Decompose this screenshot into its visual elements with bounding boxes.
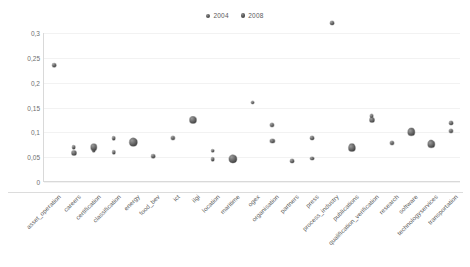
y-axis-tick-label: 0,15 <box>27 104 44 111</box>
data-point <box>72 145 76 149</box>
y-gridline <box>44 132 460 133</box>
data-point <box>390 141 394 145</box>
data-point <box>211 157 215 161</box>
data-point <box>211 149 215 153</box>
data-point <box>369 117 374 122</box>
data-point <box>348 145 355 152</box>
x-axis-tick-label: ogex <box>246 193 261 208</box>
y-axis-tick-label: 0,2 <box>31 79 44 86</box>
data-point <box>270 139 274 143</box>
data-point <box>270 123 274 127</box>
plot-area: 00,050,10,150,20,250,3 <box>43 33 460 182</box>
data-point <box>151 154 155 158</box>
chart-legend: 2004 2008 <box>0 12 470 19</box>
y-gridline <box>44 182 460 183</box>
data-point <box>112 136 116 140</box>
data-point <box>189 117 196 124</box>
y-gridline <box>44 108 460 109</box>
y-axis-tick-label: 0,1 <box>31 129 44 136</box>
data-point <box>449 129 453 133</box>
data-point <box>290 159 294 163</box>
legend-label: 2008 <box>248 12 263 19</box>
data-point <box>171 136 175 140</box>
data-point <box>428 141 434 147</box>
x-axis-tick-label: research <box>377 193 400 216</box>
legend-item-2004: 2004 <box>206 12 228 19</box>
data-point <box>229 155 237 163</box>
bubble-chart: 2004 2008 00,050,10,150,20,250,3 asset_o… <box>0 0 470 267</box>
legend-item-2008: 2008 <box>241 12 264 19</box>
legend-label: 2004 <box>213 12 228 19</box>
y-gridline <box>44 83 460 84</box>
data-point <box>52 63 56 67</box>
y-gridline <box>44 157 460 158</box>
y-axis-tick-label: 0,25 <box>27 54 44 61</box>
data-point <box>130 139 137 146</box>
y-gridline <box>44 33 460 34</box>
data-point <box>71 150 76 155</box>
x-axis-tick-label: asset_operation <box>25 193 62 230</box>
data-point <box>310 157 314 161</box>
x-axis-tick-label: partners <box>279 193 301 215</box>
data-point <box>310 136 314 140</box>
x-axis-tick-label: maritime <box>218 193 240 215</box>
y-axis-tick-label: 0,3 <box>31 30 44 37</box>
data-point <box>408 129 414 135</box>
data-point <box>449 121 453 125</box>
x-axis-tick-label: location <box>200 193 221 214</box>
data-point <box>90 144 96 150</box>
x-axis-tick-label: press <box>304 193 320 209</box>
legend-marker-icon <box>241 13 246 18</box>
x-axis-tick-label: ict <box>171 193 181 203</box>
data-point <box>112 150 115 153</box>
data-point <box>330 21 334 25</box>
legend-marker-icon <box>206 14 210 18</box>
x-axis-tick-label: ilgi <box>190 193 201 204</box>
data-point <box>251 101 255 105</box>
y-gridline <box>44 58 460 59</box>
y-axis-tick-label: 0 <box>36 179 44 186</box>
y-axis-tick-label: 0,05 <box>27 154 44 161</box>
x-axis-labels: asset_operationcareerscertificationclass… <box>43 193 460 267</box>
